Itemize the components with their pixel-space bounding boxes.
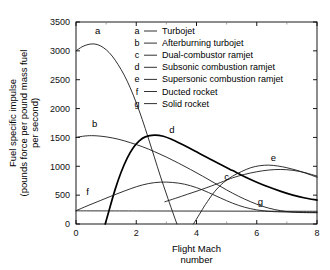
curve-label-e: e [271,152,276,163]
x-tick-label-8: 8 [314,228,319,238]
y-tick-label-2500: 2500 [50,75,70,85]
legend-key-c: c [135,50,140,60]
x-axis-title-line2: number [180,254,212,265]
fuel-specific-impulse-chart: 050010001500200025003000350002468 abcdef… [0,0,330,270]
legend-label-d: Subsonic combustion ramjet [162,62,276,72]
legend-label-c: Dual-combustor ramjet [162,50,254,60]
curve-label-g: g [258,196,263,207]
legend-key-e: e [134,74,139,84]
y-tick-label-3000: 3000 [50,46,70,56]
y-tick-label-1000: 1000 [50,162,70,172]
legend-key-a: a [134,26,139,36]
legend-label-g: Solid rocket [162,99,210,109]
x-tick-label-6: 6 [254,228,259,238]
y-tick-label-3500: 3500 [50,17,70,27]
legend-key-b: b [134,38,139,48]
legend-key-g: g [134,99,139,109]
y-tick-label-500: 500 [55,190,70,200]
legend-label-f: Ducted rocket [162,87,218,97]
legend-key-d: d [134,62,139,72]
x-tick-label-0: 0 [73,228,78,238]
curve-label-b: b [92,118,97,129]
y-tick-label-1500: 1500 [50,133,70,143]
curve-label-a: a [95,25,101,36]
chart-figure: 050010001500200025003000350002468 abcdef… [0,0,330,270]
curve-label-f: f [86,186,89,197]
y-tick-label-0: 0 [65,219,70,229]
legend-label-b: Afterburning turbojet [162,38,244,48]
legend-label-e: Supersonic combustion ramjet [162,74,284,84]
x-tick-label-4: 4 [194,228,199,238]
x-axis-title-line1: Flight Mach [172,243,221,254]
y-axis-title-line3: per second) [29,98,40,148]
y-tick-label-2000: 2000 [50,104,70,114]
y-axis-title-line1: Fuel specific impulse [7,79,18,167]
curve-label-c: c [224,171,229,182]
x-tick-label-2: 2 [134,228,139,238]
legend-label-a: Turbojet [162,26,195,36]
y-axis-title-line2: (pounds force per pound mass fuel [18,50,29,197]
curve-label-d: d [169,124,174,135]
